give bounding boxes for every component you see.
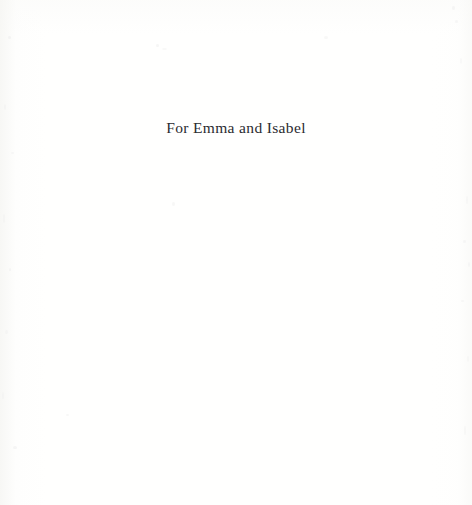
scan-speck: [3, 214, 5, 223]
scan-speck: [452, 6, 455, 10]
scan-speck: [11, 152, 14, 154]
scan-speck: [468, 262, 470, 267]
scan-speck: [455, 20, 458, 23]
scan-speck: [464, 426, 466, 435]
scan-speck: [5, 330, 8, 334]
scan-speck: [8, 36, 11, 39]
scan-speck: [461, 300, 464, 302]
scan-speck: [4, 104, 6, 110]
dedication-page: For Emma and Isabel: [0, 0, 472, 505]
dedication-text: For Emma and Isabel: [0, 118, 472, 137]
scan-speck: [467, 356, 469, 362]
scan-speck: [324, 36, 328, 39]
scan-speck: [463, 240, 466, 243]
scan-speck: [466, 196, 468, 204]
page-scan-shading: [0, 0, 472, 505]
scan-speck: [2, 392, 4, 399]
scan-speck: [156, 44, 159, 47]
scan-speck: [13, 446, 17, 449]
scan-speck: [460, 58, 462, 64]
scan-speck: [162, 48, 167, 50]
scan-speck: [9, 268, 11, 271]
scan-speck: [172, 202, 175, 206]
scan-speck: [66, 414, 69, 416]
